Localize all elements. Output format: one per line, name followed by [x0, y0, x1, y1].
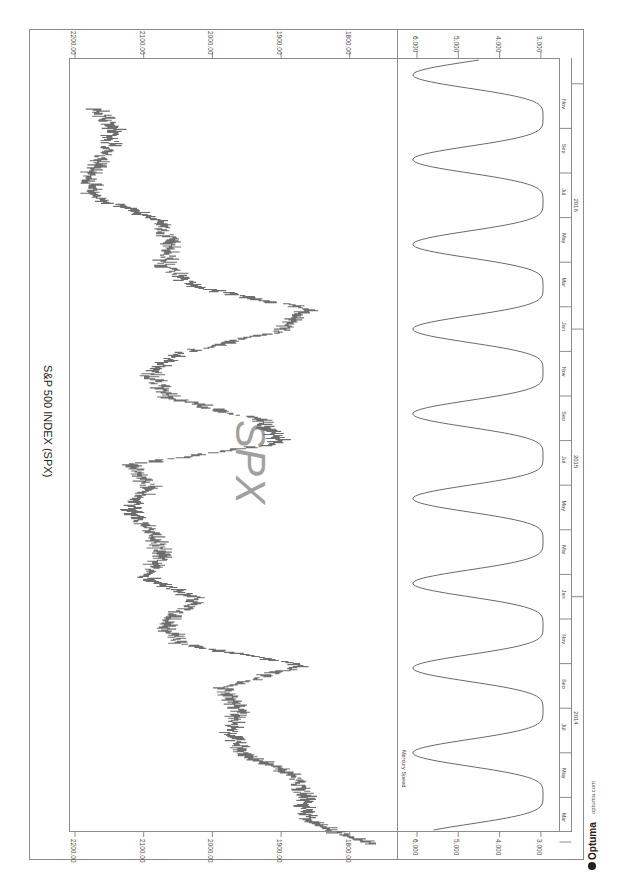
- price-tick-label: 1900.00: [276, 839, 283, 863]
- plot-frame: [70, 59, 560, 832]
- month-label: Sep: [561, 679, 567, 689]
- price-tick-label: 2200.00: [70, 31, 77, 55]
- price-tick-label: 2100.00: [139, 31, 146, 55]
- price-tick-label: 1800.00: [345, 31, 352, 55]
- price-axis-top: 2200.002100.002000.001900.001800.00: [70, 31, 352, 58]
- month-label: May: [561, 501, 567, 512]
- footer-brand: Optumaoptuma.com: [587, 781, 598, 870]
- month-label: Sep: [561, 144, 567, 154]
- price-tick-label: 2200.00: [70, 839, 77, 863]
- watermark-text: SPX: [227, 420, 274, 506]
- mercury-tick-label: 6.000: [412, 839, 419, 856]
- mercury-speed-line: [413, 60, 543, 830]
- month-label: Jan: [561, 590, 567, 599]
- price-tick-label: 1900.00: [276, 31, 283, 55]
- mercury-tick-label: 5.000: [453, 839, 460, 856]
- mercury-tick-label: 5.000: [453, 36, 460, 53]
- month-label: Jul: [561, 724, 567, 731]
- title-text: S&P 500 INDEX (SPX): [42, 365, 54, 477]
- month-label: Jul: [561, 188, 567, 195]
- month-label: Jul: [561, 456, 567, 463]
- month-label: Nov: [561, 99, 567, 109]
- chart-title: S&P 500 INDEX (SPX): [42, 365, 54, 477]
- month-label: Jan: [561, 322, 567, 331]
- year-label: 2015: [573, 455, 579, 469]
- spx-watermark: SPX: [227, 420, 274, 506]
- month-label: Sep: [561, 411, 567, 421]
- mercury-speed-label: Mercury Speed: [401, 750, 407, 787]
- month-label: Nov: [561, 367, 567, 377]
- mercury-speed-text: Mercury Speed: [401, 750, 407, 787]
- mercury-tick-label: 4.000: [495, 839, 502, 856]
- mercury-tick-label: 3.000: [536, 36, 543, 53]
- brand-name: Optuma: [587, 822, 598, 860]
- month-label: Mar: [561, 278, 567, 288]
- month-label: May: [561, 768, 567, 779]
- year-label: 2016: [573, 198, 579, 212]
- brand-url[interactable]: optuma.com: [590, 781, 596, 814]
- year-label: 2014: [573, 711, 579, 725]
- month-label: Mar: [561, 813, 567, 823]
- price-axis-bottom: 2200.002100.002000.001900.001800.00: [70, 831, 352, 863]
- price-tick-label: 2000.00: [207, 839, 214, 863]
- month-label: May: [561, 233, 567, 244]
- mercury-axis-top: 6.0005.0004.0003.000: [412, 36, 543, 58]
- mercury-tick-label: 3.000: [536, 839, 543, 856]
- mercury-tick-label: 4.000: [495, 36, 502, 53]
- price-tick-label: 2000.00: [207, 31, 214, 55]
- chart-page: 2200.002100.002000.001900.001800.00 2200…: [0, 0, 617, 888]
- mercury-tick-label: 6.000: [412, 36, 419, 53]
- price-tick-label: 2100.00: [139, 839, 146, 863]
- price-tick-label: 1800.00: [345, 839, 352, 863]
- outer-frame: [30, 30, 584, 860]
- mercury-axis-bottom: 6.0005.0004.0003.000: [412, 831, 543, 856]
- month-label: Mar: [561, 545, 567, 555]
- optuma-logo-icon: [588, 862, 596, 870]
- month-label: Nov: [561, 634, 567, 644]
- spx-chart: 2200.002100.002000.001900.001800.00 2200…: [0, 0, 617, 888]
